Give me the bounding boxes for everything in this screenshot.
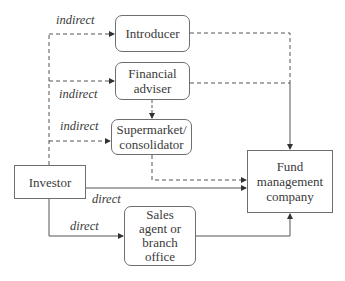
label-direct-fund: direct — [92, 192, 121, 207]
label-indirect-supermarket: indirect — [60, 119, 98, 134]
introducer-node: Introducer — [115, 15, 190, 52]
supermarket-consolidator-node: Supermarket/ consolidator — [111, 119, 192, 155]
label-indirect-introducer: indirect — [56, 13, 94, 28]
line-introducer-to-fund — [190, 33, 290, 83]
investor-node: Investor — [14, 165, 86, 199]
sales-agent-node: Sales agent or branch office — [124, 206, 196, 266]
financial-adviser-node: Financial adviser — [115, 62, 190, 100]
label-direct-sales: direct — [70, 219, 99, 234]
arrow-sales-to-fund — [196, 214, 290, 236]
arrow-supermarket-to-fund — [152, 155, 246, 180]
label-indirect-financial-adviser: indirect — [59, 87, 97, 102]
fund-management-company-node: Fund management company — [247, 150, 333, 213]
